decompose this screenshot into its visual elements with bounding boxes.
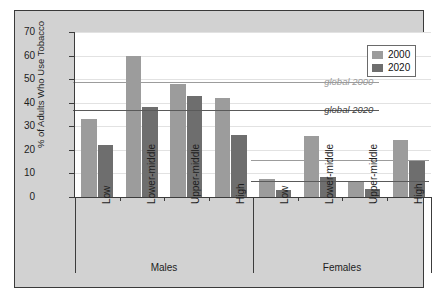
legend-label-2000: 2000 — [388, 50, 410, 60]
group-name-label: Females — [253, 262, 431, 273]
y-axis-line — [74, 32, 75, 198]
y-tick-label: 10 — [5, 168, 35, 178]
bar — [304, 136, 319, 197]
x-tick-mark — [387, 197, 388, 201]
reference-line-label: global 2020 — [324, 104, 373, 115]
bar — [126, 56, 141, 197]
y-tick-mark — [69, 173, 74, 174]
x-tick-mark — [342, 197, 343, 201]
y-axis-title: % of Adults Who Use Tobacco — [35, 0, 46, 170]
bar — [81, 119, 96, 197]
category-label: Upper-middle — [368, 144, 379, 204]
y-tick-mark — [69, 103, 74, 104]
group-name-label: Males — [75, 262, 253, 273]
legend-item-2020[interactable]: 2020 — [372, 62, 410, 73]
legend-swatch-2000-icon — [372, 51, 383, 59]
y-tick-label: 0 — [5, 192, 35, 202]
x-tick-mark — [164, 197, 165, 201]
reference-line — [251, 181, 429, 182]
legend-item-2000[interactable]: 2000 — [372, 49, 410, 60]
category-label: Lower-middle — [146, 144, 157, 204]
x-tick-mark — [120, 197, 121, 201]
legend[interactable]: 2000 2020 — [367, 45, 416, 77]
y-tick-label: 70 — [5, 27, 35, 37]
y-tick-label: 60 — [5, 51, 35, 61]
category-label: Lower-middle — [324, 144, 335, 204]
bar — [170, 84, 185, 197]
reference-line-label: global 2000 — [324, 76, 373, 87]
y-tick-mark — [69, 150, 74, 151]
y-tick-mark — [69, 197, 74, 198]
y-tick-label: 20 — [5, 145, 35, 155]
y-tick-mark — [69, 126, 74, 127]
legend-label-2020: 2020 — [388, 63, 410, 73]
y-tick-mark — [69, 79, 74, 80]
bar — [348, 182, 363, 197]
y-tick-label: 40 — [5, 98, 35, 108]
x-tick-mark — [209, 197, 210, 201]
category-label: Low — [279, 186, 290, 204]
group-separator — [431, 198, 432, 273]
x-tick-mark — [298, 197, 299, 201]
y-tick-label: 30 — [5, 121, 35, 131]
bar — [393, 140, 408, 197]
y-tick-mark — [69, 56, 74, 57]
category-label: Upper-middle — [190, 144, 201, 204]
bar — [215, 98, 230, 197]
chart-plate: % of Adults Who Use Tobacco 010203040506… — [14, 10, 424, 288]
category-label: High — [235, 183, 246, 204]
reference-line — [251, 160, 429, 161]
y-tick-label: 50 — [5, 74, 35, 84]
legend-swatch-2020-icon — [372, 64, 383, 72]
category-label: Low — [101, 186, 112, 204]
y-tick-mark — [69, 32, 74, 33]
tobacco-use-bar-chart: % of Adults Who Use Tobacco 010203040506… — [0, 0, 438, 299]
gridline — [75, 32, 431, 33]
category-label: High — [413, 183, 424, 204]
